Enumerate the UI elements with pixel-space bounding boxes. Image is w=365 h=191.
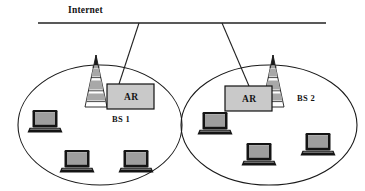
router-bs1: AR: [107, 84, 154, 109]
uplink-line-bs2: [222, 23, 249, 86]
cell-label-bs2: BS 2: [297, 93, 315, 103]
laptop-1: [28, 110, 63, 133]
laptop-2: [60, 150, 95, 173]
network-diagram: Internet AR BS 1: [0, 0, 365, 191]
laptop-3: [119, 150, 154, 173]
laptop-4: [198, 112, 233, 135]
router-bs2: AR: [225, 86, 272, 111]
cell-label-bs1: BS 1: [112, 114, 130, 124]
tower-bs1: [85, 55, 107, 107]
cell-bs1: AR BS 1: [18, 55, 182, 185]
router-label-bs2: AR: [242, 94, 257, 104]
internet-label: Internet: [68, 5, 103, 15]
uplink-line-bs1: [119, 23, 139, 84]
internet-backbone: Internet: [38, 5, 326, 23]
network-diagram-canvas: Internet AR BS 1: [0, 0, 365, 191]
laptop-5: [242, 143, 277, 166]
cell-bs2: AR BS 2: [181, 55, 357, 185]
router-label-bs1: AR: [124, 92, 139, 102]
laptop-6: [301, 133, 336, 156]
